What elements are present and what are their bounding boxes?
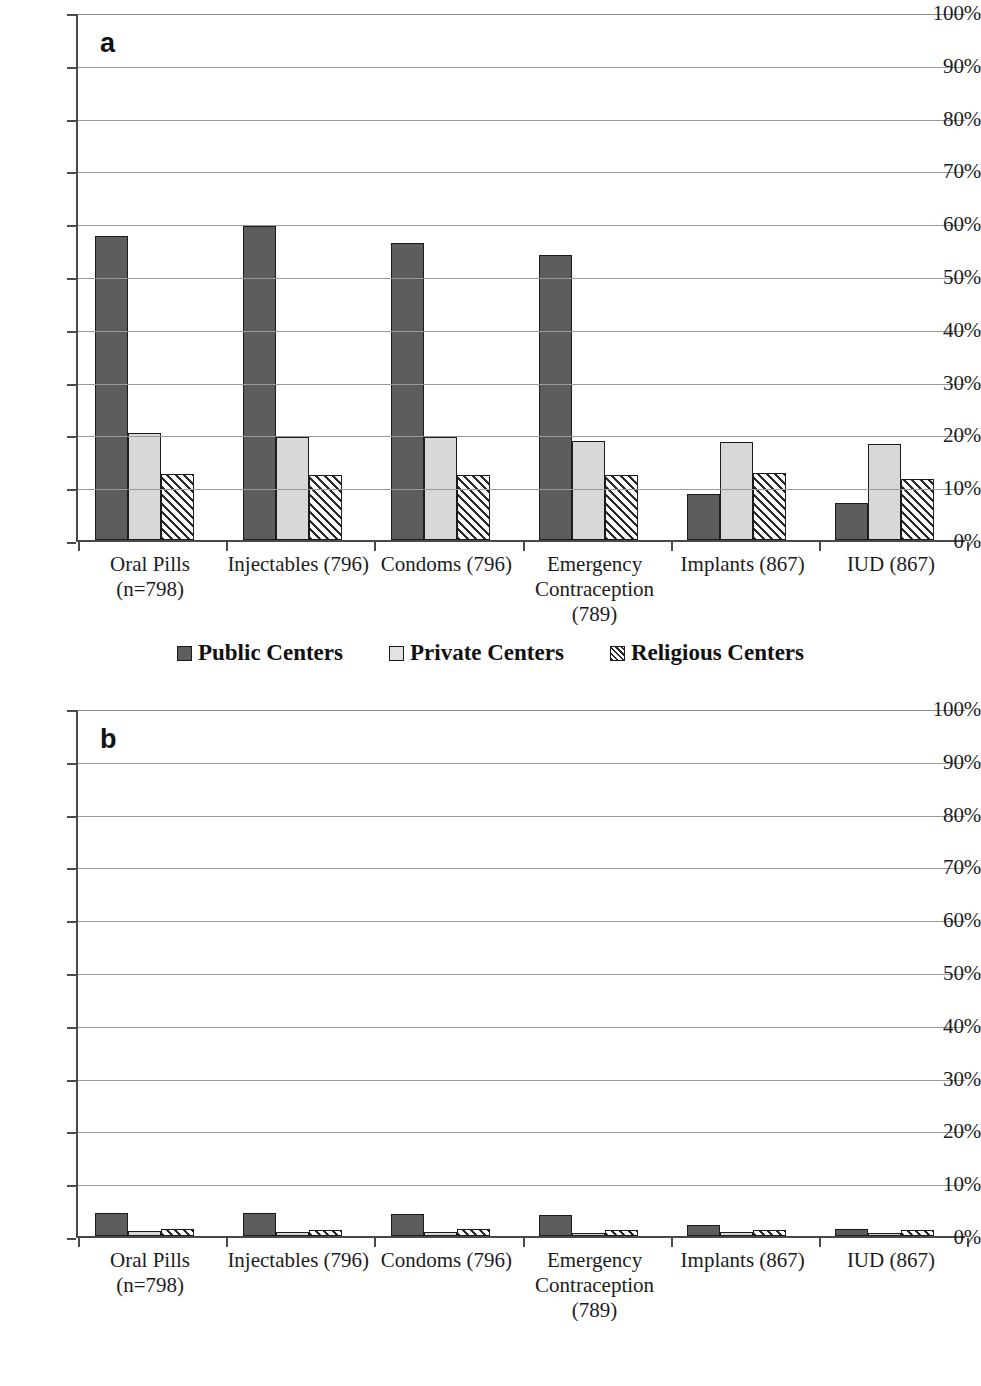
bar <box>309 1230 342 1236</box>
x-axis-category-label: Implants (867) <box>669 1248 817 1273</box>
bar <box>391 243 424 540</box>
legend-swatch-icon <box>389 646 404 661</box>
y-axis-tick-label: 80% <box>913 109 981 130</box>
y-axis-tick-label: 0% <box>913 531 981 552</box>
x-axis-category-label-line: (789) <box>521 602 669 627</box>
y-axis-tick-mark <box>67 489 76 491</box>
y-axis-tick-mark <box>67 816 76 818</box>
x-axis-tick-mark <box>78 542 80 551</box>
bar <box>868 444 901 540</box>
bar <box>572 441 605 540</box>
gridline <box>78 1185 965 1186</box>
bar <box>243 1213 276 1236</box>
x-axis-tick-mark <box>374 542 376 551</box>
x-axis-tick-mark <box>819 542 821 551</box>
x-axis-category-label-line: Implants (867) <box>669 552 817 577</box>
bar <box>605 475 638 540</box>
x-axis-labels-a: Oral Pills(n=798)Injectables (796)Condom… <box>76 552 965 638</box>
y-axis-tick-label: 70% <box>913 161 981 182</box>
x-axis-category-label: Oral Pills(n=798) <box>76 1248 224 1298</box>
bar <box>276 1232 309 1236</box>
gridline <box>78 278 965 279</box>
y-axis-tick-mark <box>67 14 76 16</box>
plot-area-a: a <box>76 14 965 542</box>
legend-swatch-icon <box>177 646 192 661</box>
bar <box>161 474 194 540</box>
bar <box>539 1215 572 1236</box>
bars-layer-a <box>78 14 965 540</box>
x-axis-category-label-line: Condoms (796) <box>372 552 520 577</box>
x-axis-category-label-line: (n=798) <box>76 577 224 602</box>
y-axis-tick-label: 20% <box>913 425 981 446</box>
y-axis-tick-label: 0% <box>913 1227 981 1248</box>
bars-layer-b <box>78 710 965 1236</box>
gridline <box>78 921 965 922</box>
x-axis-tick-mark <box>226 1238 228 1247</box>
legend-item: Religious Centers <box>610 640 804 666</box>
y-axis-tick-label: 30% <box>913 1069 981 1090</box>
y-axis-tick-label: 60% <box>913 910 981 931</box>
x-axis-category-label: EmergencyContraception(789) <box>521 552 669 627</box>
bar <box>753 473 786 540</box>
y-axis-tick-label: 90% <box>913 56 981 77</box>
x-axis-category-label-line: Condoms (796) <box>372 1248 520 1273</box>
x-axis-category-label-line: Oral Pills <box>76 552 224 577</box>
gridline <box>78 489 965 490</box>
x-axis-category-label-line: IUD (867) <box>817 552 965 577</box>
x-axis-category-label-line: Injectables (796) <box>224 1248 372 1273</box>
gridline <box>78 1027 965 1028</box>
y-axis-tick-label: 20% <box>913 1121 981 1142</box>
gridline <box>78 1132 965 1133</box>
gridline <box>78 816 965 817</box>
bar <box>457 475 490 540</box>
bar <box>753 1230 786 1236</box>
x-axis-category-label-line: Implants (867) <box>669 1248 817 1273</box>
x-axis-category-label-line: (789) <box>521 1298 669 1323</box>
x-axis-tick-mark <box>226 542 228 551</box>
x-axis-category-label-line: IUD (867) <box>817 1248 965 1273</box>
bar <box>687 494 720 540</box>
legend-swatch-icon <box>610 646 625 661</box>
gridline <box>78 974 965 975</box>
gridline <box>78 1080 965 1081</box>
gridline <box>78 331 965 332</box>
bar <box>309 475 342 540</box>
y-axis-tick-label: 10% <box>913 1174 981 1195</box>
bar <box>605 1230 638 1236</box>
gridline <box>78 67 965 68</box>
bar <box>128 433 161 540</box>
y-axis-tick-label: 40% <box>913 320 981 341</box>
x-axis-tick-mark <box>523 542 525 551</box>
y-axis-tick-mark <box>67 710 76 712</box>
gridline <box>78 172 965 173</box>
y-axis-tick-label: 50% <box>913 267 981 288</box>
gridline <box>78 868 965 869</box>
y-axis-tick-label: 40% <box>913 1016 981 1037</box>
y-axis-tick-mark <box>67 67 76 69</box>
figure-root: a 100%90%80%70%60%50%40%30%20%10%0% Oral… <box>0 0 981 1386</box>
x-axis-category-label-line: Contraception <box>521 577 669 602</box>
bar <box>572 1233 605 1236</box>
legend-label: Public Centers <box>198 640 343 666</box>
y-axis-tick-mark <box>67 1185 76 1187</box>
gridline <box>78 225 965 226</box>
y-axis-tick-label: 100% <box>913 699 981 720</box>
chart-panel-b: b 100%90%80%70%60%50%40%30%20%10%0% Oral… <box>0 696 981 1386</box>
bar <box>391 1214 424 1236</box>
legend-label: Private Centers <box>410 640 564 666</box>
y-axis-tick-mark <box>67 974 76 976</box>
y-axis-tick-label: 30% <box>913 373 981 394</box>
x-axis-category-label: Condoms (796) <box>372 1248 520 1273</box>
bar <box>835 503 868 540</box>
x-axis-tick-mark <box>671 1238 673 1247</box>
x-axis-category-label-line: Injectables (796) <box>224 552 372 577</box>
legend-a: Public CentersPrivate CentersReligious C… <box>0 640 981 666</box>
x-axis-tick-mark <box>819 1238 821 1247</box>
y-axis-tick-label: 10% <box>913 478 981 499</box>
bar <box>95 1213 128 1236</box>
bar <box>720 442 753 540</box>
x-axis-category-label-line: (n=798) <box>76 1273 224 1298</box>
x-axis-category-label: Injectables (796) <box>224 1248 372 1273</box>
bar <box>457 1229 490 1236</box>
bar <box>539 255 572 540</box>
